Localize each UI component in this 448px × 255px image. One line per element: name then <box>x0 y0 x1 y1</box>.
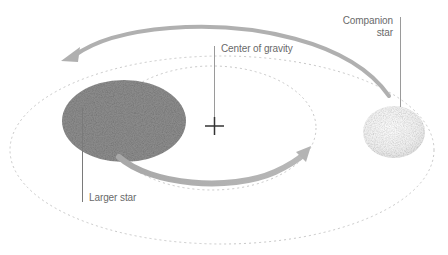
larger-star <box>62 80 186 162</box>
center-of-gravity-label: Center of gravity <box>221 43 293 55</box>
companion-star-label: Companion star <box>325 15 393 39</box>
outer-orbit <box>10 56 434 244</box>
larger-star-label: Larger star <box>89 192 136 204</box>
center-of-gravity-cross-icon <box>205 117 224 135</box>
binary-star-diagram: Center of gravity Larger star Companion … <box>0 0 448 255</box>
companion-star <box>363 106 425 158</box>
arrowhead-upper-icon <box>61 47 80 62</box>
